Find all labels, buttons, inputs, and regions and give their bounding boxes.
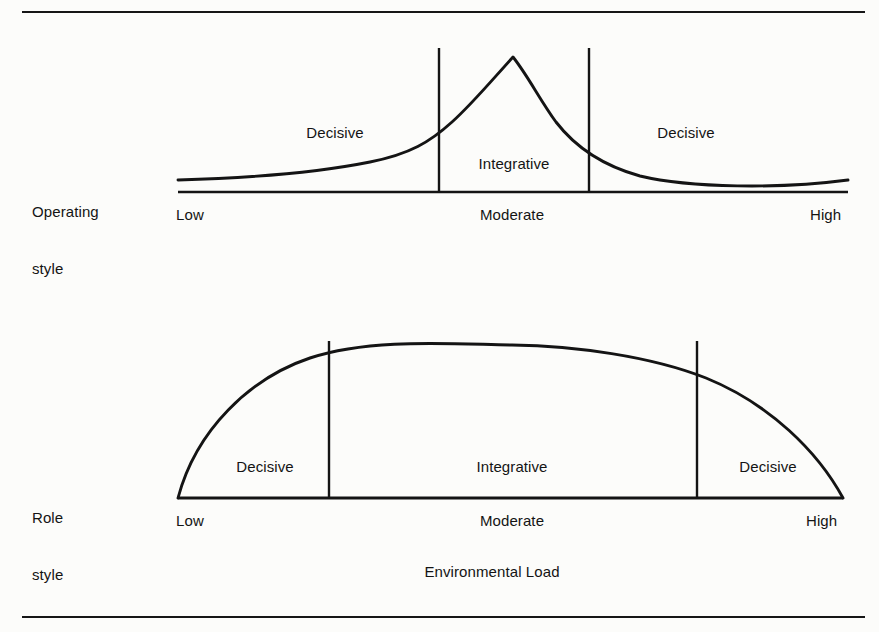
x-axis-title: Environmental Load (424, 563, 559, 581)
operating-style-region-decisive-right: Decisive (657, 124, 714, 142)
operating-style-axis-label: Operating style (32, 164, 99, 316)
figure-top-rule (22, 11, 865, 13)
role-style-region-decisive-right: Decisive (739, 458, 796, 476)
role-style-tick-high: High (806, 512, 837, 530)
operating-style-region-decisive-left: Decisive (306, 124, 363, 142)
figure-curves (0, 0, 879, 632)
operating-style-tick-low: Low (176, 206, 204, 224)
role-style-region-integrative: Integrative (476, 458, 547, 476)
role-style-tick-moderate: Moderate (480, 512, 544, 530)
role-style-tick-low: Low (176, 512, 204, 530)
role-style-axis-label-line2: style (32, 565, 63, 584)
role-style-axis-label: Role style (32, 470, 63, 622)
role-style-axis-label-line1: Role (32, 508, 63, 527)
figure-bottom-rule (22, 616, 865, 618)
operating-style-tick-high: High (810, 206, 841, 224)
operating-style-tick-moderate: Moderate (480, 206, 544, 224)
operating-style-axis-label-line1: Operating (32, 202, 99, 221)
operating-style-region-integrative: Integrative (478, 155, 549, 173)
operating-style-axis-label-line2: style (32, 259, 99, 278)
figure-page: Operating style Decisive Integrative Dec… (0, 0, 879, 632)
role-style-region-decisive-left: Decisive (236, 458, 293, 476)
